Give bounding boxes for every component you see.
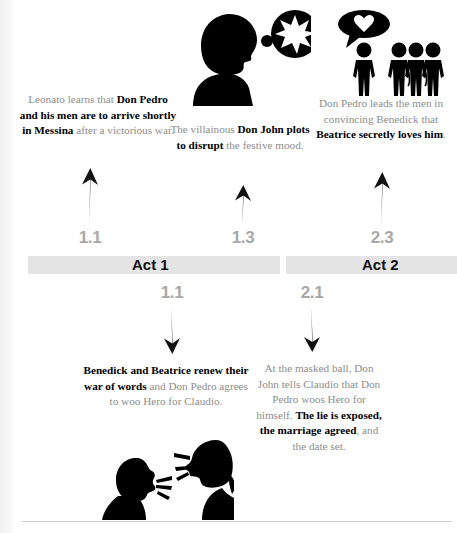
two-heads-arguing-icon — [98, 430, 234, 520]
arrow-up-scene-1-1 — [78, 168, 102, 223]
scene-number-1-3-above: 1.3 — [223, 228, 263, 248]
text-part: after a victorious war. — [73, 124, 173, 136]
event-text-leonato: Leonato learns that Don Pedro and his me… — [18, 92, 178, 139]
text-part: . — [443, 128, 446, 140]
text-part: The villainous — [170, 123, 237, 135]
event-text-masked-ball: At the masked ball, Don John tells Claud… — [255, 361, 383, 454]
arrow-up-scene-2-3 — [370, 172, 394, 224]
footer-rule — [22, 521, 452, 522]
scene-number-1-1-below: 1.1 — [152, 283, 192, 303]
text-part: Don Pedro leads the men in convincing Be… — [319, 97, 443, 125]
thinking-head-with-starburst-thought-icon — [183, 6, 311, 106]
event-text-benedick-beatrice: Benedick and Beatrice renew their war of… — [80, 363, 252, 410]
text-part-bold: Beatrice secretly loves him — [316, 128, 443, 140]
event-text-don-john: The villainous Don John plots to disrupt… — [170, 122, 310, 153]
arrow-down-scene-1-1 — [160, 306, 184, 354]
scene-number-2-1-below: 2.1 — [292, 283, 332, 303]
figure-with-heart-bubble-and-group-icon — [334, 8, 452, 96]
act-label-1: Act 1 — [132, 256, 169, 274]
scene-number-2-3-above: 2.3 — [362, 228, 402, 248]
scene-number-1-1-above: 1.1 — [70, 228, 110, 248]
text-part: Leonato learns that — [28, 93, 117, 105]
text-part: the festive mood. — [223, 139, 303, 151]
arrow-up-scene-1-3 — [231, 185, 255, 225]
timeline-infographic: Leonato learns that Don Pedro and his me… — [0, 0, 457, 533]
page-gutter — [0, 0, 15, 533]
arrow-down-scene-2-1 — [300, 306, 324, 352]
event-text-beatrice-trick: Don Pedro leads the men in convincing Be… — [308, 96, 454, 143]
act-label-2: Act 2 — [362, 256, 399, 274]
